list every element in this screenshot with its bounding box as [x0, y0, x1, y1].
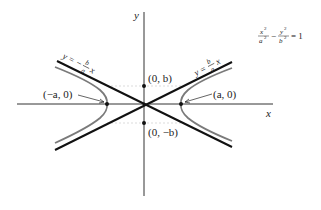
- point-co-vertex-bottom: [142, 121, 146, 125]
- hyperbola-diagram: x y (0, b) (0, −b) (a, 0) (−a, 0) y = b …: [0, 0, 321, 210]
- hyperbola-equation: x 2 a 2 − y 2 b 2 = 1: [258, 26, 303, 45]
- x-axis-label: x: [265, 107, 271, 119]
- svg-text:b: b: [279, 37, 283, 45]
- svg-text:x: x: [213, 56, 222, 67]
- point-vertex-right: [179, 102, 183, 106]
- svg-text:x: x: [88, 64, 97, 75]
- svg-text:−: −: [271, 31, 276, 41]
- y-axis-label: y: [133, 9, 139, 21]
- label-vertex-right: (a, 0): [213, 88, 237, 101]
- point-vertex-left: [105, 102, 109, 106]
- origin: [143, 103, 146, 106]
- svg-text:2: 2: [284, 26, 287, 31]
- point-co-vertex-top: [142, 84, 146, 88]
- svg-text:= 1: = 1: [291, 31, 303, 41]
- svg-text:a: a: [259, 37, 263, 45]
- label-co-vertex-top: (0, b): [148, 72, 172, 85]
- hyperbola-left-branch: [55, 67, 107, 143]
- label-vertex-left: (−a, 0): [43, 88, 73, 101]
- label-co-vertex-bottom: (0, −b): [148, 126, 178, 139]
- svg-text:2: 2: [264, 26, 267, 31]
- pointer-arrows: [78, 94, 212, 103]
- svg-text:y = −: y = −: [60, 50, 84, 69]
- asymptote-negative-label: y = − b a x: [58, 48, 98, 79]
